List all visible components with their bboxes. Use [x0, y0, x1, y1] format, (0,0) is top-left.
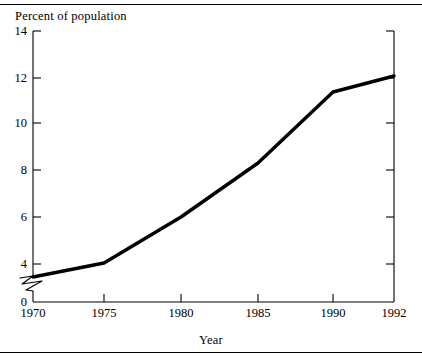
chart-plot-area [0, 0, 422, 358]
y-axis-break-symbol [20, 276, 42, 291]
y-axis-right-ticks [386, 31, 394, 264]
x-axis-ticks [104, 294, 333, 302]
figure-container: Percent of population Year 14 12 10 8 6 … [0, 0, 422, 358]
y-axis-left-ticks [33, 31, 41, 264]
data-series-line [33, 76, 394, 277]
